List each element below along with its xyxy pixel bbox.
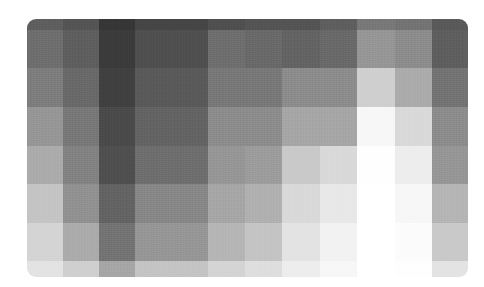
heatmap-cell xyxy=(282,107,320,146)
heatmap-cell xyxy=(99,184,135,223)
heatmap-cell xyxy=(395,107,432,146)
heatmap-cell xyxy=(395,146,432,184)
heatmap-cell xyxy=(99,223,135,261)
heatmap-cell xyxy=(135,19,172,30)
heatmap-cell xyxy=(357,107,395,146)
heatmap-cell xyxy=(395,261,432,277)
heatmap-cell xyxy=(282,184,320,223)
heatmap-cell xyxy=(282,146,320,184)
heatmap-cell xyxy=(245,261,282,277)
heatmap-cell xyxy=(282,30,320,68)
heatmap-cell xyxy=(27,146,63,184)
heatmap-cell xyxy=(245,30,282,68)
heatmap-cell xyxy=(357,184,395,223)
heatmap-cell xyxy=(27,261,63,277)
heatmap-cell xyxy=(245,184,282,223)
heatmap-cell xyxy=(27,68,63,107)
heatmap-cell xyxy=(432,19,468,30)
heatmap-cell xyxy=(27,184,63,223)
heatmap-cell xyxy=(432,68,468,107)
heatmap-cell xyxy=(432,107,468,146)
heatmap-cell xyxy=(320,223,357,261)
heatmap-cell xyxy=(172,30,208,68)
heatmap-cell xyxy=(135,68,172,107)
heatmap-cell xyxy=(320,19,357,30)
heatmap-cell xyxy=(135,146,172,184)
heatmap-cell xyxy=(395,19,432,30)
heatmap-cell xyxy=(282,68,320,107)
heatmap-cell xyxy=(432,184,468,223)
heatmap-cell xyxy=(395,30,432,68)
heatmap-cell xyxy=(282,223,320,261)
heatmap-cell xyxy=(27,223,63,261)
heatmap-cell xyxy=(27,19,63,30)
heatmap-cell xyxy=(63,223,99,261)
heatmap-cell xyxy=(63,107,99,146)
heatmap-cell xyxy=(357,68,395,107)
heatmap-cell xyxy=(172,223,208,261)
chart-canvas xyxy=(0,0,484,287)
heatmap-cell xyxy=(63,30,99,68)
heatmap-cell xyxy=(63,19,99,30)
heatmap-cell xyxy=(282,19,320,30)
heatmap-cell xyxy=(172,146,208,184)
heatmap-cell xyxy=(172,19,208,30)
heatmap-cell xyxy=(172,68,208,107)
heatmap-cell xyxy=(99,30,135,68)
heatmap-cell xyxy=(99,261,135,277)
heatmap-cell xyxy=(208,19,245,30)
heatmap-cell xyxy=(357,223,395,261)
heatmap-cell xyxy=(432,30,468,68)
heatmap-cell xyxy=(99,68,135,107)
heatmap-cell xyxy=(245,107,282,146)
heatmap-cell xyxy=(208,261,245,277)
heatmap-cell xyxy=(320,68,357,107)
heatmap-cell xyxy=(63,68,99,107)
heatmap-cell xyxy=(357,19,395,30)
heatmap-cell xyxy=(172,107,208,146)
heatmap-cell xyxy=(99,19,135,30)
heatmap-cell xyxy=(63,184,99,223)
heatmap-cell xyxy=(245,19,282,30)
heatmap-cell xyxy=(357,30,395,68)
heatmap-cell xyxy=(432,146,468,184)
heatmap-cell xyxy=(208,223,245,261)
heatmap-cell xyxy=(432,223,468,261)
heatmap-cell xyxy=(432,261,468,277)
heatmap-cell xyxy=(320,146,357,184)
heatmap-cell xyxy=(245,68,282,107)
heatmap-cell xyxy=(63,146,99,184)
heatmap-cell xyxy=(135,184,172,223)
heatmap-cell xyxy=(99,107,135,146)
heatmap-cell xyxy=(320,184,357,223)
heatmap-cell xyxy=(245,223,282,261)
heatmap-cell xyxy=(357,146,395,184)
heatmap-cell xyxy=(395,184,432,223)
heatmap-cell xyxy=(172,184,208,223)
heatmap-cell xyxy=(135,223,172,261)
heatmap-cell xyxy=(135,107,172,146)
heatmap-cell xyxy=(99,146,135,184)
heatmap-cell xyxy=(320,107,357,146)
heatmap-cell xyxy=(320,30,357,68)
grayscale-heatmap xyxy=(27,19,468,277)
heatmap-cell xyxy=(208,107,245,146)
heatmap-cell xyxy=(208,30,245,68)
heatmap-cell xyxy=(208,184,245,223)
heatmap-cell xyxy=(135,261,172,277)
heatmap-cell xyxy=(395,68,432,107)
heatmap-cell xyxy=(245,146,282,184)
heatmap-cell xyxy=(208,146,245,184)
heatmap-cell xyxy=(63,261,99,277)
heatmap-cell xyxy=(208,68,245,107)
heatmap-cell xyxy=(135,30,172,68)
heatmap-cell xyxy=(320,261,357,277)
heatmap-cell xyxy=(395,223,432,261)
heatmap-cell xyxy=(27,30,63,68)
heatmap-cell xyxy=(357,261,395,277)
heatmap-cell xyxy=(172,261,208,277)
heatmap-cell xyxy=(27,107,63,146)
heatmap-cell xyxy=(282,261,320,277)
